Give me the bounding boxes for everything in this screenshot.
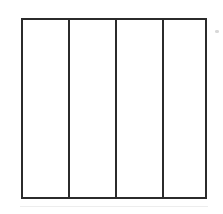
grid-divider-3 — [162, 20, 164, 197]
grid-divider-1 — [68, 20, 70, 197]
grid-cell-2 — [70, 20, 115, 197]
grid-divider-2 — [115, 20, 117, 197]
grid-cell-3-label — [117, 20, 118, 21]
figure-title: Blank four-column grid — [0, 0, 1, 1]
grid-cell-2-label — [70, 20, 71, 21]
scan-speck — [215, 30, 219, 33]
grid-cell-4 — [164, 20, 207, 197]
four-column-grid — [21, 18, 207, 199]
grid-cell-3 — [117, 20, 162, 197]
scan-canvas: Blank four-column grid — [0, 0, 223, 214]
grid-cell-1 — [23, 20, 68, 197]
grid-cell-1-label — [23, 20, 24, 21]
grid-cell-4-label — [164, 20, 165, 21]
scan-baseline-smudge — [20, 206, 208, 207]
